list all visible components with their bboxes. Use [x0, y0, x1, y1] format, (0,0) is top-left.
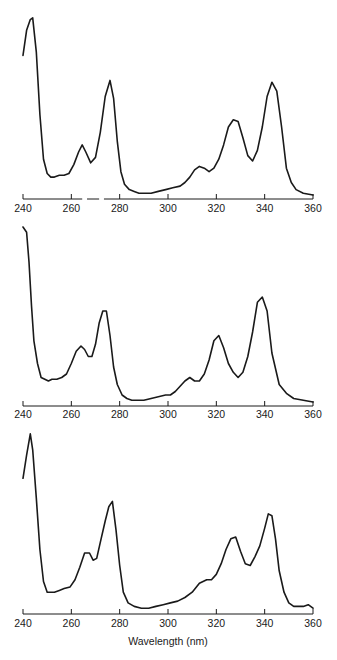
x-tick-label: 320	[208, 202, 226, 214]
x-tick-label: 260	[63, 408, 81, 420]
absorption-spectra-figure: 240260280300320340360 240260280300320340…	[0, 0, 337, 660]
x-tick-label: 280	[111, 202, 129, 214]
spectrum-curve-2	[23, 227, 313, 402]
x-tick-label: 240	[14, 202, 32, 214]
x-axis-label: Wavelength (nm)	[128, 635, 208, 647]
x-tick-label: 280	[111, 617, 129, 629]
x-tick-label: 280	[111, 408, 129, 420]
x-tick-label: 360	[304, 408, 322, 420]
spectrum-curve-1	[23, 18, 313, 195]
x-tick-label: 340	[256, 408, 274, 420]
panel-3: 240260280300320340360 Wavelength (nm)	[14, 434, 322, 647]
panel-1: 240260280300320340360	[14, 18, 322, 214]
x-tick-label: 300	[159, 202, 177, 214]
x-axis-panel-1: 240260280300320340360	[14, 194, 322, 214]
x-tick-label: 320	[208, 617, 226, 629]
spectrum-curve-3	[23, 434, 313, 608]
x-axis-panel-3: 240260280300320340360	[14, 609, 322, 629]
x-tick-label: 360	[304, 202, 322, 214]
x-tick-label: 260	[63, 617, 81, 629]
x-tick-label: 240	[14, 408, 32, 420]
x-tick-label: 320	[208, 408, 226, 420]
x-tick-label: 240	[14, 617, 32, 629]
x-tick-label: 360	[304, 617, 322, 629]
x-tick-label: 300	[159, 617, 177, 629]
x-tick-label: 340	[256, 617, 274, 629]
x-tick-label: 260	[63, 202, 81, 214]
x-axis-panel-2: 240260280300320340360	[14, 401, 322, 420]
panel-2: 240260280300320340360	[14, 227, 322, 420]
x-tick-label: 340	[256, 202, 274, 214]
x-tick-label: 300	[159, 408, 177, 420]
